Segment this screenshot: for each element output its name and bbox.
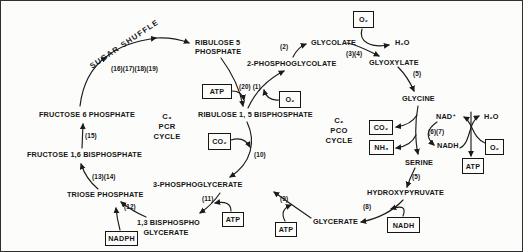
cycle-c3-symbol: C₃	[149, 112, 185, 122]
metabolite-nadh-text: NADH	[437, 142, 459, 151]
metabolite-fructose-6-phosphate: FRUCTOSE 6 PHOSPHATE	[39, 111, 135, 120]
step-label-3-4: (3)(4)	[346, 50, 362, 57]
metabolite-ribulose-15-bisphosphate: RIBULOSE 1, 5 BISPHOSPHATE	[198, 111, 313, 120]
step-label-13-14: (13)(14)	[92, 173, 116, 180]
cofactor-box-nadph: NADPH	[105, 231, 138, 246]
metabolite-glycolate: GLYCOLATE	[311, 39, 356, 48]
cycle-c3-word: CYCLE	[149, 132, 185, 142]
cofactor-box-nadh: NADH	[387, 217, 420, 233]
metabolite-nad-plus: NAD⁺	[436, 113, 456, 122]
step-label-12: (12)	[124, 203, 136, 210]
step-label-15: (15)	[85, 132, 97, 139]
cofactor-box-atp-mito: ATP	[462, 158, 484, 174]
step-label-6-7: (6)(7)	[428, 128, 444, 135]
step-label-2: (2)	[280, 43, 288, 50]
step-label-8: (8)	[363, 203, 371, 210]
metabolite-fructose-16-bisphosphate: FRUCTOSE 1,6 BISPHOSPHATE	[27, 151, 142, 160]
metabolite-h2o-right: H₂O	[484, 113, 499, 122]
step-label-11: (11)	[202, 195, 213, 202]
metabolite-3-phosphoglycerate: 3-PHOSPHOGLYCERATE	[153, 181, 242, 190]
metabolite-serine: SERINE	[405, 159, 433, 168]
metabolite-glycine: GLYCINE	[402, 95, 435, 104]
step-label-10: (10)	[254, 151, 266, 158]
step-label-16-19: (16)(17)(18)(19)	[111, 65, 158, 72]
step-label-20-1: (20) (1)	[239, 83, 261, 90]
cofactor-box-co2-rubisco: CO₂	[208, 133, 231, 150]
cofactor-box-atp-ru5p: ATP	[202, 84, 232, 99]
cycle-title-c3: C₃ PCR CYCLE	[149, 112, 185, 142]
metabolite-glyoxylate: GLYOXYLATE	[369, 59, 419, 68]
metabolite-2-phosphoglycolate: 2-PHOSPHOGLYCOLATE	[247, 60, 336, 69]
metabolite-triose-phosphate: TRIOSE PHOSPHATE	[67, 191, 143, 200]
metabolite-h2o-top: H₂O	[395, 39, 410, 48]
metabolite-hydroxypyruvate: HYDROXYPYRUVATE	[367, 189, 444, 198]
cofactor-box-o2-glycolate: O₂	[353, 11, 374, 28]
pathway-diagram: SUGAR SHUFFLE RIBULOSE 5 PHOSPHATE RIBUL…	[0, 0, 523, 252]
cycle-title-c2: C₂ PCO CYCLE	[321, 116, 357, 146]
cycle-c2-name: PCO	[321, 126, 357, 136]
pathway-arrows	[1, 1, 523, 252]
cycle-c2-symbol: C₂	[321, 116, 357, 126]
metabolite-ribulose-5-phosphate-line2: PHOSPHATE	[195, 48, 241, 57]
cofactor-box-nh3: NH₃	[369, 140, 394, 155]
cofactor-box-o2-mito: O₂	[485, 139, 504, 155]
cofactor-box-atp-pga: ATP	[222, 212, 244, 227]
cofactor-box-atp-glycerate: ATP	[275, 222, 297, 237]
step-label-5-glyoxylate: (5)	[413, 70, 421, 77]
step-label-5-serine: (5)	[412, 173, 420, 180]
cycle-c2-word: CYCLE	[321, 136, 357, 146]
step-label-9: (9)	[280, 195, 288, 202]
metabolite-glycerate: GLYCERATE	[313, 218, 358, 227]
cycle-c3-name: PCR	[149, 122, 185, 132]
cofactor-box-co2-glycine: CO₂	[369, 120, 393, 135]
metabolite-13-bisphosphoglycerate-line1: 1,3 BISPHOSPHO	[137, 219, 195, 228]
cofactor-box-o2-rubp: O₂	[279, 91, 301, 108]
metabolite-13-bisphosphoglycerate-line2: GLYCERATE	[137, 229, 195, 238]
